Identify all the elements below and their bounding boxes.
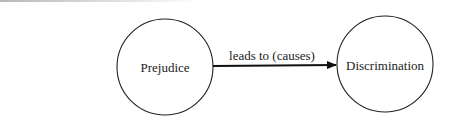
node-discrimination-label: Discrimination — [346, 58, 424, 73]
edge-leads-to: leads to (causes) — [213, 48, 336, 66]
causal-diagram: Prejudice leads to (causes) Discriminati… — [0, 0, 450, 131]
edge-label: leads to (causes) — [229, 48, 315, 63]
arrow-icon — [213, 65, 336, 66]
node-prejudice-label: Prejudice — [140, 60, 189, 75]
node-discrimination: Discrimination — [337, 16, 433, 112]
node-prejudice: Prejudice — [117, 19, 213, 115]
